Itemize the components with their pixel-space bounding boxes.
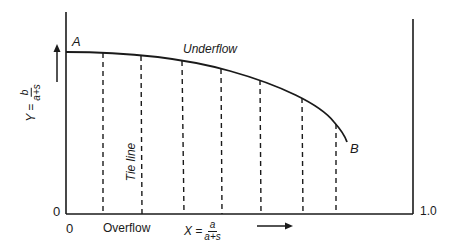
x-arrow-icon xyxy=(257,223,293,230)
curve-label: Underflow xyxy=(183,43,237,55)
underflow-curve xyxy=(66,52,347,142)
tie-line xyxy=(182,61,184,214)
y-numerator: b xyxy=(20,88,32,98)
tie-line xyxy=(302,98,303,214)
y-axis-var: Y = xyxy=(24,104,38,122)
point-b-label: B xyxy=(350,142,359,155)
tie-line xyxy=(221,69,222,214)
diagram-canvas xyxy=(0,0,456,250)
y-axis-label: Y = b a+s xyxy=(20,84,42,122)
x-denominator: a+s xyxy=(204,232,220,243)
tie-lines xyxy=(103,53,336,214)
x-axis-label: X = a a+s xyxy=(184,220,221,242)
x-axis-fraction: a a+s xyxy=(204,220,220,242)
x-max-label: 1.0 xyxy=(420,205,437,217)
tie-line-label: Tie line xyxy=(125,143,137,182)
y-arrow-icon xyxy=(54,44,61,82)
x-origin-label: 0 xyxy=(66,222,73,235)
y-axis-fraction: b a+s xyxy=(20,84,42,100)
x-axis-var: X = xyxy=(184,224,202,238)
x-numerator: a xyxy=(208,220,218,232)
point-a-label: A xyxy=(72,35,81,48)
overflow-label: Overflow xyxy=(103,222,150,234)
tie-line xyxy=(260,80,261,214)
y-origin-label: 0 xyxy=(53,205,60,218)
y-denominator: a+s xyxy=(31,84,42,100)
tie-line xyxy=(141,56,142,214)
